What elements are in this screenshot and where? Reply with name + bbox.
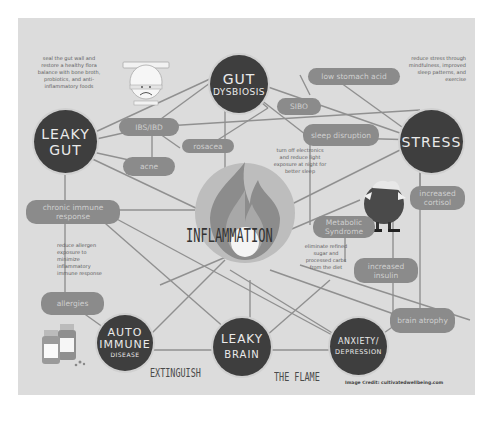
pill-sleep-disruption[interactable]: sleep disruption	[303, 124, 379, 146]
pill-low-stomach-acid[interactable]: low stomach acid	[308, 68, 400, 85]
pill-sibo[interactable]: SIBO	[277, 98, 321, 115]
tagline-the-flame: THE FLAME	[274, 369, 320, 384]
node-sublabel: BRAIN	[224, 347, 260, 363]
node-gut-dysbiosis[interactable]: GUT DYSBIOSIS	[210, 55, 268, 113]
allergy-note: reduce allergen exposure to minimize inf…	[57, 242, 109, 277]
stress-note: reduce stress through mindfulness, impro…	[400, 55, 466, 83]
node-label: LEAKY	[41, 126, 89, 142]
node-label: ANXIETY/	[338, 336, 379, 347]
pill-increased-cortisol[interactable]: increased cortisol	[410, 186, 465, 210]
pill-allergies[interactable]: allergies	[41, 292, 104, 315]
node-sublabel: IMMUNE	[99, 339, 150, 351]
sad-toilet-icon	[120, 58, 172, 108]
image-credit: Image Credit: cultivatedwellbeing.com	[345, 380, 443, 385]
node-sublabel-2: DISEASE	[110, 351, 139, 359]
sugar-note: eliminate refined sugar and processed ca…	[301, 243, 351, 271]
node-auto-immune-disease[interactable]: AUTO IMMUNE DISEASE	[97, 315, 153, 371]
node-sublabel: DEPRESSION	[335, 347, 382, 358]
node-label: GUT	[223, 71, 256, 87]
node-sublabel: DYSBIOSIS	[213, 87, 265, 98]
pill-chronic-immune-response[interactable]: chronic immune response	[26, 200, 120, 224]
node-stress[interactable]: STRESS	[400, 110, 463, 173]
flame-icon	[192, 160, 298, 266]
gut-note: seal the gut wall and restore a healthy …	[34, 55, 104, 90]
node-label: LEAKY	[221, 331, 263, 347]
pill-acne[interactable]: acne	[123, 157, 175, 176]
pill-rosacea[interactable]: rosacea	[182, 139, 234, 153]
pill-increased-insulin[interactable]: increased insulin	[354, 258, 418, 283]
pill-brain-atrophy[interactable]: brain atrophy	[390, 308, 455, 333]
tagline-extinguish: EXTINGUISH	[150, 365, 201, 380]
pill-metabolic-syndrome[interactable]: Metabolic Syndrome	[313, 216, 375, 238]
node-leaky-brain[interactable]: LEAKY BRAIN	[213, 318, 271, 376]
node-leaky-gut[interactable]: LEAKY GUT	[34, 110, 97, 173]
node-sublabel: GUT	[49, 142, 82, 158]
pill-ibs-ibd[interactable]: IBS/IBD	[119, 118, 179, 136]
node-anxiety-depression[interactable]: ANXIETY/ DEPRESSION	[330, 318, 387, 375]
inflammation-title: INFLAMMATION	[186, 223, 273, 247]
medicine-bottles-icon	[38, 320, 88, 368]
node-label: STRESS	[402, 134, 462, 150]
